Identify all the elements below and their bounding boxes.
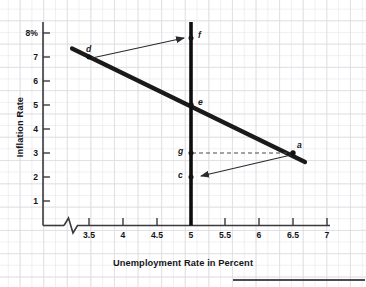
x-tick-label-4: 4 <box>105 230 141 240</box>
data-point-f <box>189 36 194 41</box>
data-point-e <box>188 102 193 107</box>
arrow-a-to-c <box>201 155 291 176</box>
point-label-d: d <box>86 44 91 54</box>
data-point-c <box>189 175 194 180</box>
x-axis-title: Unemployment Rate in Percent <box>0 258 366 268</box>
y-tick-label-1: 1 <box>10 196 38 206</box>
y-axis-ticks <box>43 33 50 201</box>
data-point-g <box>189 151 194 156</box>
y-tick-label-8: 8% <box>10 28 38 38</box>
x-tick-label-5-5: 5.5 <box>207 230 243 240</box>
x-tick-label-3-5: 3.5 <box>71 230 107 240</box>
y-axis-title: Inflation Rate <box>15 77 25 177</box>
bottom-edge-rule <box>233 279 365 281</box>
x-tick-label-7: 7 <box>309 230 345 240</box>
x-tick-label-6: 6 <box>241 230 277 240</box>
phillips-curve-chart-figure: 8% 7 6 5 4 3 2 1 3.5 4 4.5 5 5.5 6 6.5 7… <box>0 0 366 287</box>
x-tick-label-5: 5 <box>173 230 209 240</box>
point-label-f: f <box>198 30 201 40</box>
x-axis-ticks <box>89 218 327 226</box>
data-point-a <box>290 150 295 155</box>
y-tick-label-7: 7 <box>10 52 38 62</box>
x-tick-label-4-5: 4.5 <box>139 230 175 240</box>
x-tick-label-6-5: 6.5 <box>275 230 311 240</box>
data-point-d <box>87 55 92 60</box>
point-label-e: e <box>198 97 203 107</box>
arrow-d-to-f <box>92 38 184 58</box>
chart-plot-area <box>0 0 366 287</box>
point-label-c: c <box>178 170 183 180</box>
point-label-a: a <box>297 140 302 150</box>
point-label-g: g <box>178 146 183 156</box>
